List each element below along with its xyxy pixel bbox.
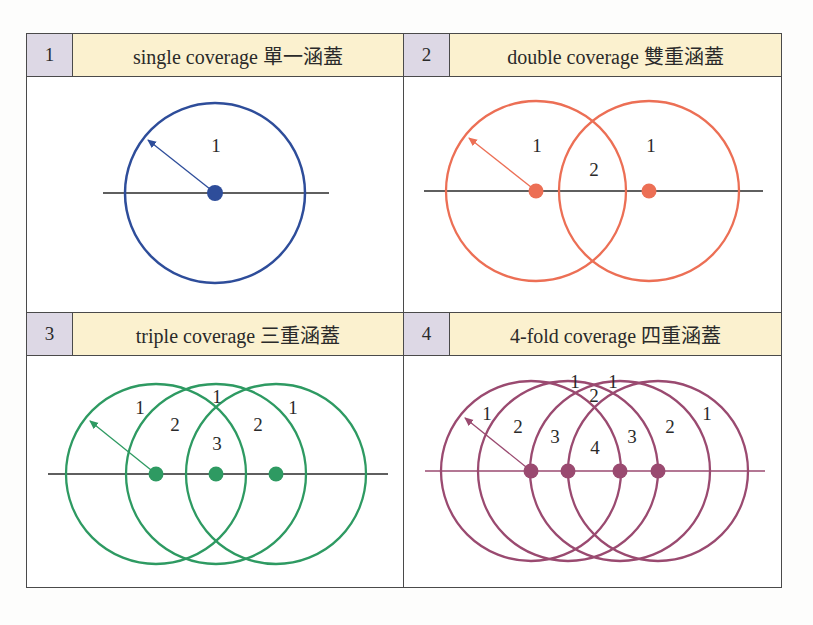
region-label: 1 [211,135,221,156]
region-label: 1 [570,371,580,392]
radius-arrow-icon [469,138,536,191]
region-label: 1 [646,135,656,156]
region-label: 2 [513,416,523,437]
station-dot [642,184,657,199]
single-coverage-drawing: 1 [103,103,329,283]
region-label: 2 [665,416,675,437]
region-label: 2 [170,414,180,435]
radius-arrow-icon [148,140,215,193]
region-label: 1 [212,386,222,407]
region-label: 3 [212,433,222,454]
station-dot [524,464,539,479]
region-label: 1 [288,397,298,418]
station-dot [561,464,576,479]
triple-coverage-drawing: 1 2 1 3 2 1 [48,384,388,564]
region-label: 1 [135,397,145,418]
region-label: 1 [532,135,542,156]
region-label: 2 [589,385,599,406]
region-label: 4 [590,437,600,458]
station-dot [149,467,164,482]
double-coverage-drawing: 1 2 1 [424,101,763,281]
region-label: 1 [482,403,492,424]
region-label: 1 [702,403,712,424]
station-dot [209,467,224,482]
station-dot [613,464,628,479]
station-dot [529,184,544,199]
region-label: 2 [589,159,599,180]
region-label: 3 [550,426,560,447]
station-dot [651,464,666,479]
region-label: 2 [253,414,263,435]
station-dot [207,185,223,201]
radius-arrow-icon [90,421,156,474]
coverage-drawings: 1 1 2 1 1 2 1 3 2 1 [0,0,813,625]
region-label: 3 [627,426,637,447]
station-dot [269,467,284,482]
4fold-coverage-drawing: 1 2 3 1 2 1 4 3 2 1 [425,371,765,561]
region-label: 1 [608,371,618,392]
